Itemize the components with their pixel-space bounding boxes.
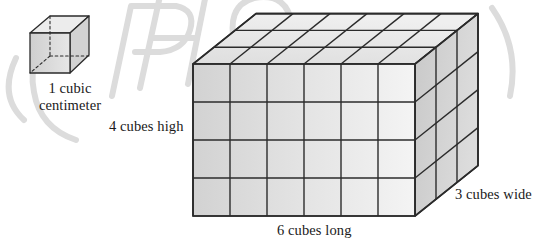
prism-length-label: 6 cubes long [277, 222, 352, 239]
unit-cube [30, 16, 89, 73]
unit-cube-label-line1: 1 cubic [49, 80, 92, 96]
rectangular-prism [193, 14, 478, 216]
unit-cube-label: 1 cubiccentimeter [18, 80, 122, 114]
unit-cube-label-line2: centimeter [39, 97, 101, 113]
figure-canvas: 1 cubiccentimeter 4 cubes high 6 cubes l… [0, 0, 554, 246]
prism-height-label: 4 cubes high [109, 118, 184, 135]
geometry-layer [0, 0, 554, 246]
prism-width-label: 3 cubes wide [455, 186, 532, 203]
